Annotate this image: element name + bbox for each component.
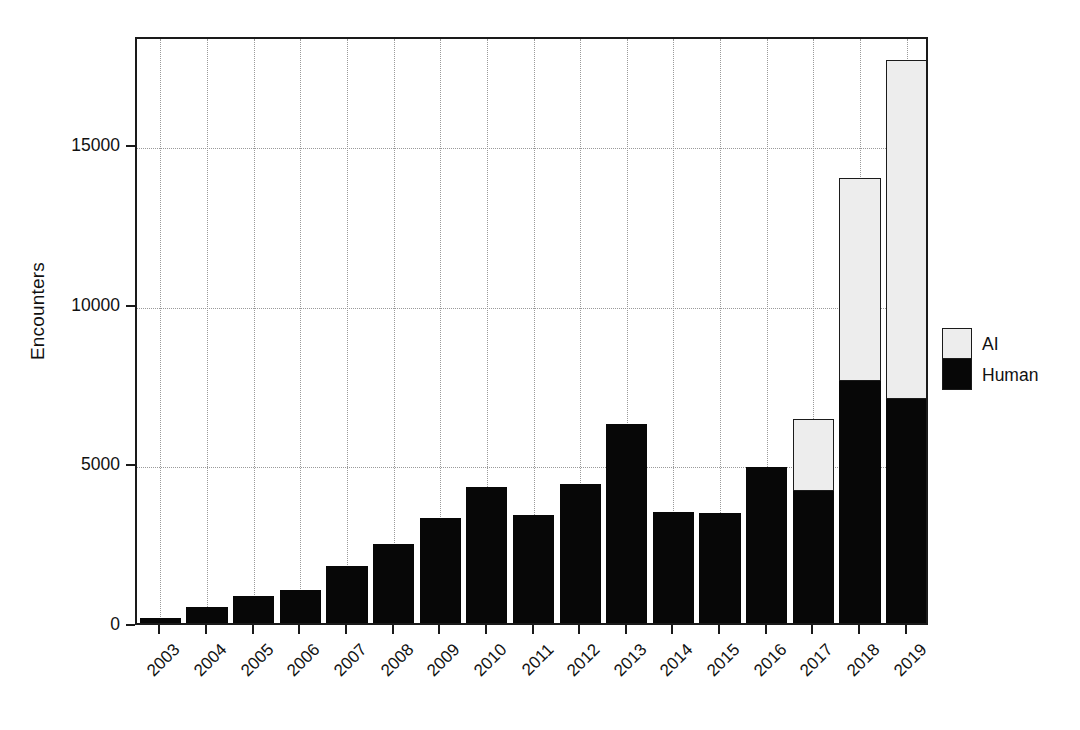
bar-2005[interactable] [233, 39, 274, 623]
bar-segment-human-2015[interactable] [699, 513, 740, 623]
bar-segment-human-2018[interactable] [839, 381, 880, 623]
y-tick-label: 10000 [40, 295, 120, 316]
plot-inner [137, 39, 926, 623]
bar-2003[interactable] [140, 39, 181, 623]
bar-segment-human-2014[interactable] [653, 512, 694, 623]
bar-2016[interactable] [746, 39, 787, 623]
legend-label-ai: AI [982, 334, 999, 355]
bar-segment-human-2017[interactable] [793, 491, 834, 623]
x-tick-mark [485, 625, 487, 634]
bar-2011[interactable] [513, 39, 554, 623]
bar-segment-ai-2019[interactable] [886, 60, 926, 399]
x-tick-mark [158, 625, 160, 634]
bar-segment-human-2004[interactable] [186, 607, 227, 623]
bars-layer [137, 39, 926, 623]
legend-swatch-ai [943, 329, 971, 359]
bar-segment-human-2016[interactable] [746, 467, 787, 623]
chart-figure: Encounters 050001000015000 2003200420052… [0, 0, 1080, 730]
bar-segment-human-2006[interactable] [280, 590, 321, 623]
x-tick-mark [298, 625, 300, 634]
y-tick-label: 0 [40, 614, 120, 635]
x-tick-mark [532, 625, 534, 634]
bar-segment-human-2003[interactable] [140, 618, 181, 623]
legend-label-human: Human [982, 365, 1038, 386]
bar-2008[interactable] [373, 39, 414, 623]
bar-segment-human-2019[interactable] [886, 399, 926, 623]
bar-segment-human-2013[interactable] [606, 424, 647, 623]
x-tick-mark [811, 625, 813, 634]
x-tick-mark [765, 625, 767, 634]
x-tick-mark [625, 625, 627, 634]
x-tick-mark [671, 625, 673, 634]
y-tick-label: 5000 [40, 454, 120, 475]
bar-segment-human-2009[interactable] [420, 518, 461, 623]
bar-segment-human-2008[interactable] [373, 544, 414, 623]
y-tick-mark [126, 145, 135, 147]
bar-segment-human-2011[interactable] [513, 515, 554, 623]
y-tick-mark [126, 464, 135, 466]
bar-segment-human-2012[interactable] [560, 484, 601, 623]
bar-2012[interactable] [560, 39, 601, 623]
bar-2013[interactable] [606, 39, 647, 623]
x-tick-mark [392, 625, 394, 634]
legend-swatch-group [942, 328, 972, 390]
bar-segment-ai-2018[interactable] [839, 178, 880, 380]
bar-2006[interactable] [280, 39, 321, 623]
y-tick-mark [126, 305, 135, 307]
x-tick-mark [252, 625, 254, 634]
bar-2015[interactable] [699, 39, 740, 623]
x-tick-mark [438, 625, 440, 634]
bar-2018[interactable] [839, 39, 880, 623]
bar-segment-human-2005[interactable] [233, 596, 274, 623]
bar-2009[interactable] [420, 39, 461, 623]
x-tick-mark [205, 625, 207, 634]
bar-2014[interactable] [653, 39, 694, 623]
bar-segment-ai-2017[interactable] [793, 419, 834, 491]
x-tick-mark [578, 625, 580, 634]
plot-area [135, 37, 928, 625]
bar-segment-human-2007[interactable] [326, 566, 367, 623]
y-tick-mark [126, 624, 135, 626]
bar-2004[interactable] [186, 39, 227, 623]
bar-2017[interactable] [793, 39, 834, 623]
x-tick-mark [718, 625, 720, 634]
x-tick-mark [345, 625, 347, 634]
bar-2010[interactable] [466, 39, 507, 623]
bar-2007[interactable] [326, 39, 367, 623]
legend-swatch-human [943, 359, 971, 389]
bar-segment-human-2010[interactable] [466, 487, 507, 623]
x-tick-mark [858, 625, 860, 634]
y-tick-label: 15000 [40, 135, 120, 156]
x-tick-mark [905, 625, 907, 634]
bar-2019[interactable] [886, 39, 926, 623]
